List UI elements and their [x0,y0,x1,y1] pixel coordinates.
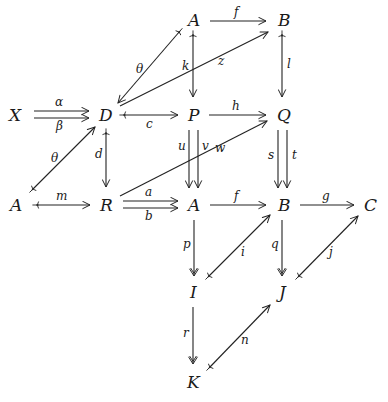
label-h: h [232,99,240,113]
label-theta2: θ [51,151,59,165]
node-a-mid: A [186,195,200,215]
node-b-top: B [277,10,291,30]
node-j: J [276,282,287,302]
node-p: P [187,105,200,125]
label-k: k [182,59,189,73]
label-b: b [145,209,153,223]
arrow-j [298,216,358,277]
arrow-theta2 [32,127,95,190]
label-p: p [183,237,191,251]
label-z: z [217,54,225,68]
label-m: m [56,189,67,203]
node-d: D [98,105,113,125]
node-k: K [186,372,201,392]
arrow-theta [118,31,180,103]
node-a-top: A [186,10,200,30]
node-r: R [99,195,113,215]
label-l: l [287,57,291,71]
node-b-mid: B [277,195,291,215]
node-x: X [7,105,22,125]
label-t: t [292,148,297,162]
label-u: u [178,139,186,153]
node-i: I [189,282,197,302]
label-c: c [146,117,153,131]
node-q: Q [277,105,291,125]
label-a: a [145,185,152,199]
arrow-n [209,305,270,368]
node-c: C [364,195,377,215]
label-alpha: α [55,95,63,109]
label-r: r [183,326,190,340]
label-s: s [268,148,274,162]
label-w: w [215,141,226,155]
node-a-left: A [8,195,22,215]
commutative-diagram: A B X D P Q A R A B C I J K [0,0,388,402]
arrow-i [208,215,270,277]
label-f2: f [233,189,241,203]
label-theta: θ [136,62,144,76]
arrow-w [120,121,267,196]
label-q: q [271,237,279,251]
label-n: n [241,333,249,347]
label-g: g [322,189,330,203]
label-f: f [233,5,241,19]
label-beta: β [55,119,63,133]
label-d: d [95,147,103,161]
label-i: i [241,245,245,259]
label-v: v [202,139,209,153]
